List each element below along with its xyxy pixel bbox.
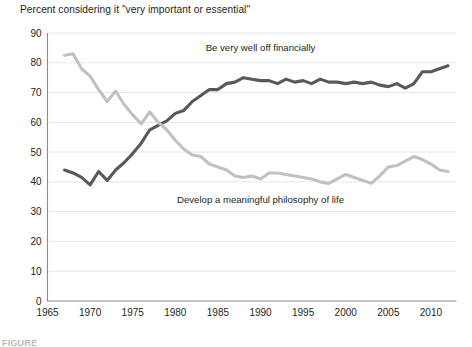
figure-container: Percent considering it "very important o… <box>0 0 472 347</box>
x-tick-label: 1965 <box>36 307 59 318</box>
x-tick-label: 1970 <box>79 307 102 318</box>
plot-area: 0102030405060708090 19651970197519801985… <box>0 0 472 347</box>
y-tick-label: 20 <box>30 236 42 247</box>
x-tick-label: 1985 <box>207 307 230 318</box>
x-tick-label: 1975 <box>122 307 145 318</box>
y-tick-label: 80 <box>30 57 42 68</box>
series-label: Develop a meaningful philosophy of life <box>177 194 344 205</box>
x-tick-label: 2010 <box>420 307 443 318</box>
series-label: Be very well off financially <box>206 42 316 53</box>
y-axis-tick-labels: 0102030405060708090 <box>30 28 42 307</box>
y-tick-label: 30 <box>30 206 42 217</box>
x-tick-label: 2000 <box>335 307 358 318</box>
figure-caption: FIGURE <box>2 338 37 347</box>
chart-svg: 0102030405060708090 19651970197519801985… <box>0 0 472 347</box>
data-series-group <box>65 54 448 185</box>
x-tick-label: 2005 <box>377 307 400 318</box>
x-tick-label: 1995 <box>292 307 315 318</box>
x-axis-tick-labels: 1965197019751980198519901995200020052010 <box>36 307 442 318</box>
y-tick-label: 40 <box>30 176 42 187</box>
y-tick-label: 60 <box>30 117 42 128</box>
y-tick-label: 10 <box>30 266 42 277</box>
y-tick-label: 50 <box>30 147 42 158</box>
x-tick-label: 1980 <box>164 307 187 318</box>
y-tick-label: 0 <box>36 296 42 307</box>
y-tick-label: 70 <box>30 87 42 98</box>
x-tick-label: 1990 <box>249 307 272 318</box>
gridlines-group <box>48 33 457 271</box>
y-tick-label: 90 <box>30 28 42 39</box>
